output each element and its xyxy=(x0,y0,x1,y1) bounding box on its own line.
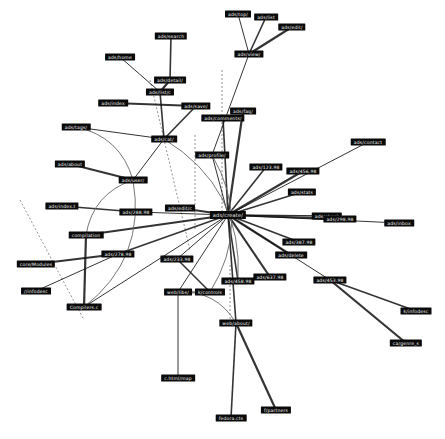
graph-edge xyxy=(330,280,406,343)
graph-node[interactable]: ads/create/ xyxy=(210,211,246,219)
graph-node[interactable]: ads/list/c xyxy=(146,89,174,96)
graph-node[interactable]: ads/456.98 xyxy=(286,168,319,175)
graph-node[interactable]: ads/save/ xyxy=(181,103,210,110)
graph-edge xyxy=(228,215,270,277)
graph-edge xyxy=(236,323,276,410)
network-graph-canvas xyxy=(0,0,445,439)
graph-edge xyxy=(177,259,210,292)
graph-node[interactable]: ads/comments/ xyxy=(201,115,244,122)
graph-node[interactable]: ads/profile/ xyxy=(195,152,229,159)
graph-node[interactable]: ads/inbox xyxy=(384,220,414,227)
graph-node[interactable]: ca/genre_s xyxy=(390,340,422,347)
graph-node[interactable]: ads/delete xyxy=(275,252,307,259)
graph-edge xyxy=(228,142,368,215)
graph-edge xyxy=(231,323,236,418)
graph-edge xyxy=(133,139,164,180)
graph-node[interactable]: ads/user/ xyxy=(119,177,148,184)
graph-node[interactable]: f/partners xyxy=(261,407,291,414)
graph-node[interactable]: ads/about xyxy=(55,161,85,168)
graph-node[interactable]: ads/453.98 xyxy=(313,277,346,284)
graph-node[interactable]: ads/233.98 xyxy=(160,256,193,263)
graph-node[interactable]: ads/search xyxy=(155,33,187,40)
graph-node[interactable]: ads/cat/ xyxy=(151,136,177,143)
graph-node[interactable]: k/infodesc xyxy=(400,308,431,315)
graph-node[interactable]: ads/288.98 xyxy=(119,209,152,216)
graph-node[interactable]: core/Modules xyxy=(17,261,55,268)
graph-node[interactable]: ads/edit/ xyxy=(278,24,305,31)
graph-node[interactable]: ads/298.98 xyxy=(323,216,356,223)
graph-node[interactable]: ads/387.98 xyxy=(282,239,315,246)
graph-edge xyxy=(212,54,249,155)
graph-edge xyxy=(228,215,236,323)
graph-node[interactable]: web/about/ xyxy=(219,320,252,327)
graph-node[interactable]: ads/edit/c xyxy=(165,205,195,212)
graph-node[interactable]: web/libs/ xyxy=(164,289,192,296)
graph-node[interactable]: ads/637.98 xyxy=(253,274,286,281)
graph-edge xyxy=(120,57,160,92)
curved-edge xyxy=(86,180,133,235)
graph-edge xyxy=(86,215,228,235)
graph-node[interactable]: ads/contact xyxy=(351,139,386,146)
graph-node[interactable]: ads/278.98 xyxy=(101,251,134,258)
graph-node[interactable]: ads/index xyxy=(98,100,128,107)
graph-node[interactable]: ads/index.t xyxy=(45,203,78,210)
graph-edge xyxy=(164,106,196,139)
graph-node[interactable]: ads/tags/ xyxy=(62,124,91,131)
graph-edge xyxy=(330,280,416,311)
graph-node[interactable]: fedora.cts xyxy=(216,415,247,422)
curved-edge xyxy=(178,292,236,323)
curved-edge xyxy=(84,180,135,307)
graph-edge xyxy=(238,14,249,54)
graph-node[interactable]: c.html/map xyxy=(161,375,195,382)
graph-node[interactable]: k/controls xyxy=(195,289,225,296)
graph-node[interactable]: ads/123.98 xyxy=(249,164,282,171)
graph-node[interactable]: ads/faq/ xyxy=(230,108,256,115)
graph-node[interactable]: ads/top/ xyxy=(225,11,251,18)
graph-node[interactable]: //infodesc xyxy=(21,288,51,295)
graph-node[interactable]: ads/stats xyxy=(288,189,316,196)
graph-node[interactable]: ads/detail/ xyxy=(154,77,186,84)
graph-edge xyxy=(84,235,86,307)
graph-node[interactable]: compilation xyxy=(69,232,104,239)
graph-node[interactable]: ads/home xyxy=(105,54,135,61)
graph-node[interactable]: ads/list xyxy=(254,14,278,21)
graph-edge xyxy=(228,215,330,280)
graph-node[interactable]: ads/view/ xyxy=(234,51,263,58)
graph-edge xyxy=(170,36,171,80)
graph-node[interactable]: ads/458.98 xyxy=(221,278,254,285)
graph-node[interactable]: Compilers.c xyxy=(67,304,102,311)
